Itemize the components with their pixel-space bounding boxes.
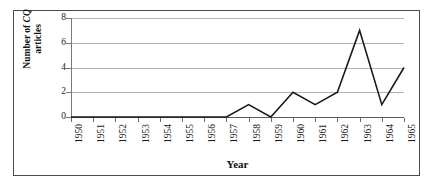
x-axis-tick-label: 1963 <box>364 124 374 143</box>
x-axis-tick-label: 1962 <box>341 124 351 143</box>
y-axis-title-line2: articles <box>33 24 43 54</box>
x-axis-tick <box>71 118 72 122</box>
x-axis-tick-label: 1955 <box>186 124 196 143</box>
x-axis-tick-label: 1959 <box>275 124 285 143</box>
y-axis-title-line1: Number of CQ <box>22 9 32 68</box>
x-axis-tick <box>182 118 183 122</box>
y-axis-title: Number of CQ articles <box>22 0 44 82</box>
y-axis-title-emphasis: CQ <box>22 9 32 22</box>
x-axis-tick <box>115 118 116 122</box>
x-axis-tick-label: 1964 <box>386 124 396 143</box>
x-axis-tick <box>160 118 161 122</box>
y-axis-tick-label: 0 <box>50 112 66 122</box>
x-axis-tick <box>204 118 205 122</box>
x-axis-tick <box>337 118 338 122</box>
x-axis-tick <box>293 118 294 122</box>
y-axis-line <box>71 18 72 118</box>
gridline <box>71 92 404 93</box>
x-axis-tick-label: 1960 <box>297 124 307 143</box>
gridline <box>71 68 404 69</box>
x-axis-tick <box>360 118 361 122</box>
y-axis-tick <box>66 43 71 44</box>
x-axis-tick-label: 1950 <box>75 124 85 143</box>
x-axis-tick-label: 1965 <box>408 124 418 143</box>
chart-figure: 02468 1950195119521953195419551956195719… <box>0 0 433 186</box>
figure-border <box>13 10 420 176</box>
x-axis-tick-label: 1954 <box>164 124 174 143</box>
x-axis-tick <box>382 118 383 122</box>
x-axis-tick <box>226 118 227 122</box>
x-axis-tick-label: 1961 <box>319 124 329 143</box>
y-axis-tick-labels: 02468 <box>46 0 66 186</box>
y-axis-tick-label: 8 <box>50 13 66 23</box>
x-axis-tick <box>404 118 405 122</box>
y-axis-tick <box>66 18 71 19</box>
x-axis-tick-label: 1953 <box>142 124 152 143</box>
x-axis-line <box>71 117 404 118</box>
y-axis-tick-label: 2 <box>50 87 66 97</box>
y-axis-tick-label: 4 <box>50 63 66 73</box>
x-axis-tick <box>249 118 250 122</box>
gridline <box>71 43 404 44</box>
x-axis-tick <box>138 118 139 122</box>
x-axis-tick <box>93 118 94 122</box>
y-axis-tick <box>66 68 71 69</box>
gridline <box>71 18 404 19</box>
y-axis-tick-label: 6 <box>50 38 66 48</box>
x-axis-tick-label: 1952 <box>119 124 129 143</box>
x-axis-tick-label: 1957 <box>230 124 240 143</box>
y-axis-tick <box>66 92 71 93</box>
x-axis-tick <box>271 118 272 122</box>
x-axis-tick-label: 1958 <box>253 124 263 143</box>
x-axis-tick <box>315 118 316 122</box>
x-axis-tick-label: 1956 <box>208 124 218 143</box>
x-axis-title: Year <box>71 158 404 170</box>
x-axis-tick-label: 1951 <box>97 124 107 143</box>
